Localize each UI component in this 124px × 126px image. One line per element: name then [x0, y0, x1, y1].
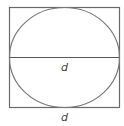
diagram-canvas: d d	[0, 0, 124, 126]
side-label: d	[61, 111, 69, 124]
diameter-label: d	[61, 61, 69, 74]
